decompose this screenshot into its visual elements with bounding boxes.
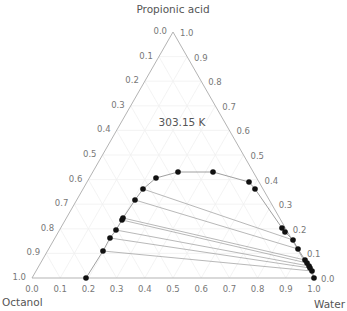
grid-line [159,57,286,278]
tick-labels: 0.00.10.20.30.40.50.60.70.80.91.01.00.90… [12,26,334,294]
data-point [311,275,317,281]
axis-label-left: Octanol [2,296,43,308]
left-tick-label: 0.7 [55,198,69,208]
bottom-tick-label: 0.2 [82,284,96,294]
data-point [252,186,258,192]
left-tick-label: 0.6 [69,174,83,184]
grid-line [117,106,216,278]
right-tick-label: 0.6 [236,126,250,136]
data-point [100,248,106,254]
grid-line [131,106,230,278]
data-point [120,215,126,221]
ternary-diagram: 0.00.10.20.30.40.50.60.70.80.91.01.00.90… [0,0,347,311]
data-point [282,229,288,235]
tie-line [143,189,293,240]
left-tick-label: 0.8 [41,223,55,233]
left-tick-label: 0.5 [83,149,97,159]
bottom-tick-label: 0.8 [251,284,265,294]
right-tick-label: 0.1 [307,249,321,259]
right-tick-label: 1.0 [180,28,194,38]
binodal-curve [86,172,314,278]
grid [46,57,300,278]
data-point [210,169,216,175]
chart-title: 303.15 K [159,116,207,128]
grid-line [103,155,174,278]
right-tick-label: 0.7 [222,102,236,112]
axis-label-right: Water [314,298,346,310]
left-tick-label: 0.3 [111,100,125,110]
left-tick-label: 0.0 [153,26,167,36]
bottom-tick-label: 0.0 [25,284,39,294]
data-point [246,179,252,185]
grid-line [74,204,116,278]
right-tick-label: 0.8 [208,77,222,87]
data-point [107,235,113,241]
bottom-tick-label: 0.1 [53,284,67,294]
left-tick-label: 0.2 [125,75,139,85]
data-point [83,275,89,281]
right-tick-label: 0.2 [293,225,307,235]
left-tick-label: 0.1 [139,51,153,61]
grid-line [229,204,271,278]
grid-line [60,57,187,278]
axis-label-top: Propionic acid [136,3,209,15]
data-point [175,169,181,175]
left-tick-label: 0.9 [27,247,41,257]
bottom-tick-label: 0.5 [166,284,180,294]
data-point [153,175,159,181]
right-tick-label: 0.3 [279,200,293,210]
data-point [140,186,146,192]
left-tick-label: 1.0 [12,272,26,282]
bottom-tick-label: 0.6 [194,284,208,294]
bottom-tick-label: 0.9 [279,284,293,294]
right-tick-label: 0.0 [321,274,335,284]
grid-line [46,253,60,278]
right-tick-label: 0.9 [194,53,208,63]
bottom-tick-label: 0.7 [223,284,237,294]
data-point [295,246,301,252]
tie-line [122,220,307,263]
bottom-tick-label: 0.4 [138,284,152,294]
data-point [309,268,315,274]
right-tick-label: 0.4 [265,176,279,186]
grid-line [173,155,244,278]
bottom-tick-label: 0.3 [110,284,124,294]
bottom-tick-label: 1.0 [307,284,321,294]
left-tick-label: 0.4 [97,124,111,134]
data-point [113,227,119,233]
right-tick-label: 0.5 [251,151,265,161]
data-point [132,197,138,203]
data-point [290,237,296,243]
